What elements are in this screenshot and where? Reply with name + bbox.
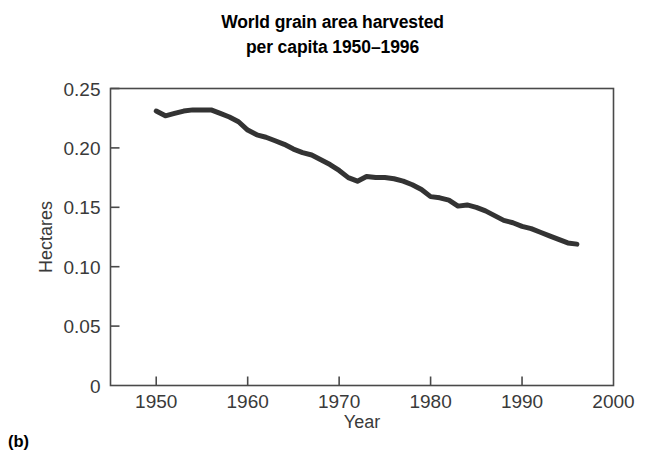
x-axis-tick-label: 1990 — [501, 391, 543, 412]
y-axis-title: Hectares — [36, 201, 56, 273]
y-axis-tick-labels: 00.050.100.150.200.25 — [64, 79, 101, 397]
y-axis-tick-label: 0.25 — [64, 79, 101, 100]
x-axis-title: Year — [344, 412, 380, 432]
x-axis-tick-label: 1950 — [135, 391, 177, 412]
y-axis-ticks — [111, 89, 120, 327]
y-axis-tick-label: 0.20 — [64, 138, 101, 159]
y-axis-tick-label: 0.15 — [64, 197, 101, 218]
y-axis-tick-label: 0.05 — [64, 316, 101, 337]
x-axis-tick-label: 2000 — [592, 391, 634, 412]
x-axis-tick-label: 1970 — [318, 391, 360, 412]
x-axis-tick-label: 1980 — [409, 391, 451, 412]
plot-border — [111, 89, 614, 386]
y-axis-tick-label: 0.10 — [64, 257, 101, 278]
line-chart: 00.050.100.150.200.25 195019601970198019… — [0, 0, 665, 465]
y-axis-tick-label: 0 — [90, 376, 101, 397]
panel-label: (b) — [8, 432, 29, 451]
x-axis-ticks — [156, 377, 522, 386]
x-axis-tick-label: 1960 — [227, 391, 269, 412]
plot-frame — [111, 89, 614, 386]
figure-panel-b: World grain area harvested per capita 19… — [0, 0, 665, 465]
data-series-line — [156, 110, 577, 244]
x-axis-tick-labels: 195019601970198019902000 — [135, 391, 635, 412]
